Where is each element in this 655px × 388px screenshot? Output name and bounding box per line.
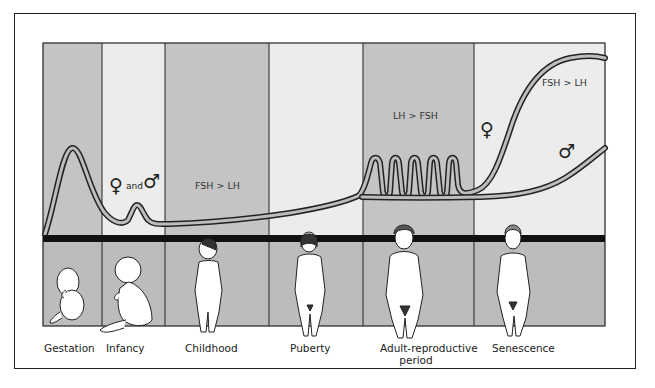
stage-label-gestation: Gestation [44, 342, 95, 354]
stage-label-childhood: Childhood [185, 342, 238, 354]
female-symbol-infancy: ♀ [109, 176, 123, 195]
stage-label-adult-line2: period [380, 354, 452, 366]
band-adult [363, 43, 474, 236]
band-childhood [165, 43, 269, 236]
gonadotropin-lifespan-diagram [0, 0, 655, 388]
stage-label-infancy: Infancy [106, 342, 145, 354]
adult-ratio-label: LH > FSH [393, 110, 438, 121]
and-text: and [126, 181, 143, 191]
senescence-ratio-label: FSH > LH [542, 77, 587, 88]
female-symbol-senescence: ♀ [480, 120, 494, 139]
male-symbol-senescence: ♂ [558, 142, 575, 161]
stage-label-adult-line1: Adult-reproductive [380, 342, 452, 354]
stage-label-adult: Adult-reproductive period [380, 342, 452, 366]
stage-label-puberty: Puberty [290, 342, 331, 354]
male-symbol-infancy: ♂ [143, 172, 160, 191]
childhood-ratio-label: FSH > LH [195, 180, 240, 191]
stage-label-senescence: Senescence [492, 342, 555, 354]
